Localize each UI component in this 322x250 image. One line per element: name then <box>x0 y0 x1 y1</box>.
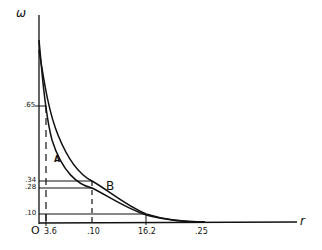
diagram-canvas <box>0 0 322 250</box>
y-tick-010: .10 <box>25 210 36 217</box>
y-tick-028: .28 <box>25 184 36 191</box>
curve-a-label: A <box>54 156 60 164</box>
x-tick-36: 3.6 <box>44 228 57 236</box>
x-tick-162: 16.2 <box>138 228 156 236</box>
curve-a <box>39 40 205 222</box>
curve-b-label: B <box>106 180 114 192</box>
curve-b <box>39 50 205 222</box>
origin-label: O <box>31 225 40 236</box>
x-axis-label: r <box>300 215 305 227</box>
x-axis <box>39 222 297 223</box>
y-axis-label: ω <box>16 7 26 19</box>
x-tick-10: .10 <box>87 228 100 236</box>
y-tick-065: .65 <box>24 102 35 109</box>
x-tick-25: .25 <box>195 228 208 236</box>
